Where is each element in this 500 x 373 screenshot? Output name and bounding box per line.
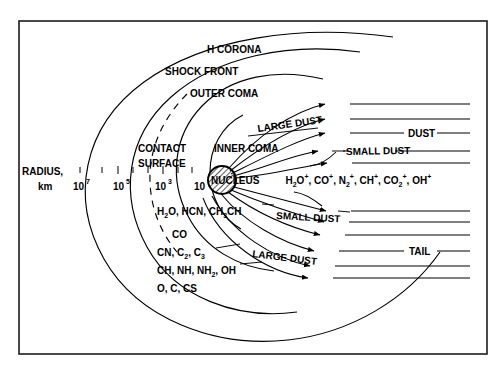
shell-label-inner-coma: INNER COMA — [214, 143, 278, 154]
shell-arc-outer-coma — [176, 74, 323, 271]
svg-text:5: 5 — [126, 178, 130, 185]
neutral-row-3: CN, C2, C3 — [157, 247, 205, 260]
svg-text:H2O+, CO+, N2+, CH+, CO2+, OH+: H2O+, CO+, N2+, CH+, CO2+, OH+ — [266, 170, 445, 188]
neutral-row-5: O, C, CS — [157, 283, 197, 294]
ion-5-formula: OH — [412, 175, 427, 186]
radius-tick-label-0: 10 7 — [73, 178, 90, 192]
radius-tick-label-3: 10 — [194, 181, 206, 192]
svg-text:10: 10 — [194, 181, 206, 192]
streamline-lower-4 — [222, 195, 314, 251]
svg-text:10: 10 — [155, 181, 167, 192]
tail-streamlines — [333, 104, 470, 278]
ion-1-formula: CO — [314, 175, 329, 186]
comet-structure-figure: RADIUS, km 10 7 10 5 10 3 10 H CORONA SH… — [0, 0, 500, 373]
shell-label-outer-coma: OUTER COMA — [190, 88, 258, 99]
tail-label-dust: DUST — [408, 128, 435, 139]
flow-label-large-dust-lower: LARGE DUST — [252, 248, 318, 267]
svg-text:7: 7 — [86, 178, 90, 185]
shell-label-h-corona: H CORONA — [207, 44, 261, 55]
comet-diagram-canvas: RADIUS, km 10 7 10 5 10 3 10 H CORONA SH… — [0, 0, 500, 373]
radius-tick-label-2: 10 3 — [155, 178, 172, 192]
ion-2-formula: N — [339, 175, 346, 186]
shell-label-shock-front: SHOCK FRONT — [165, 66, 238, 77]
ion-species-list: H2O+, CO+, N2+, CH+, CO2+, OH+ — [266, 170, 445, 188]
ion-4-sub: 2 — [399, 181, 403, 188]
radius-axis-label-line1: RADIUS, — [22, 166, 63, 177]
flow-label-small-dust-lower: SMALL DUST — [276, 210, 341, 224]
figure-border — [19, 21, 487, 354]
ion-2-sub: 2 — [346, 181, 350, 188]
flow-label-small-dust-upper: SMALL DUST — [346, 145, 410, 157]
tail-label-tail: TAIL — [409, 246, 430, 257]
radius-tick-label-1: 10 5 — [113, 178, 130, 192]
ion-3-formula: CH — [359, 175, 373, 186]
svg-text:10: 10 — [113, 181, 125, 192]
neutral-row-1: H2O, HCN, CH3CH — [157, 206, 242, 219]
ion-0-formula: H — [285, 175, 292, 186]
shell-label-contact-surface-line1: CONTACT — [138, 143, 186, 154]
radius-axis-label-line2: km — [38, 181, 53, 192]
svg-text:3: 3 — [168, 178, 172, 185]
streamline-upper-1 — [229, 104, 325, 168]
neutral-row-2: CO — [172, 229, 187, 240]
shell-arc-h-corona — [85, 32, 440, 341]
ion-5-charge: + — [427, 173, 431, 180]
ion-4-formula: CO — [384, 175, 399, 186]
shell-label-contact-surface-line2: SURFACE — [138, 158, 186, 169]
nucleus-label: NUCLEUS — [211, 175, 260, 186]
svg-text:10: 10 — [73, 181, 85, 192]
